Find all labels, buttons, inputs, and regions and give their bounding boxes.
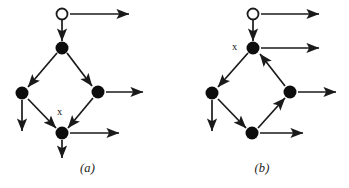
top-node [247,42,260,55]
diagram-panel-a: x (a) [0,0,175,188]
edge-top-to-left [28,53,57,87]
left-node [206,87,219,100]
edge-bottom-to-right [258,98,285,128]
figure-root: x (a) [0,0,349,188]
diagram-b-nodes [206,9,297,140]
right-node [92,86,105,99]
open-source-node [248,9,259,20]
bottom-node [56,127,69,140]
bottom-node [246,127,259,140]
edge-left-to-bottom [28,99,56,128]
marked-node-label-x: x [57,106,62,117]
left-node [16,87,29,100]
marked-node-label-x: x [232,41,237,52]
diagram-a-nodes [16,9,105,140]
edge-right-to-bottom [68,98,93,128]
diagram-panel-b: x (b) [175,0,349,188]
diagram-a-canvas [0,0,175,188]
top-node [56,42,69,55]
right-node [284,86,297,99]
diagram-a-edges [22,14,143,158]
diagram-b-edges [212,14,336,133]
edge-left-to-bottom [218,99,246,128]
open-source-node [57,9,68,20]
edge-top-to-right [67,53,92,86]
diagram-b-canvas [175,0,349,188]
edge-top-to-left [218,53,248,87]
panel-caption-a: (a) [0,161,175,176]
panel-caption-b: (b) [175,161,349,176]
edge-right-to-top [260,54,285,86]
